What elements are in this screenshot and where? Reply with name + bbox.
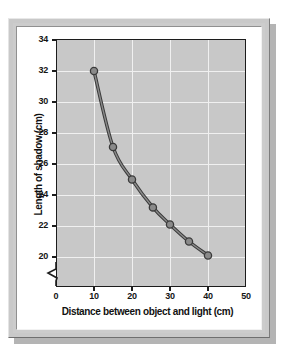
gridline-vertical [132, 40, 133, 286]
chart-canvas: 2022242628303234 01020304050 Distance be… [0, 0, 283, 352]
plot-area [56, 39, 246, 287]
gridline-horizontal [57, 226, 245, 227]
y-tick-mark [52, 163, 56, 164]
x-tick-label: 20 [121, 291, 143, 301]
x-tick-label: 40 [197, 291, 219, 301]
gridline-vertical [94, 40, 95, 286]
y-tick-mark [52, 101, 56, 102]
y-tick-mark [52, 256, 56, 257]
gridline-horizontal [57, 195, 245, 196]
gridline-horizontal [57, 164, 245, 165]
y-tick-label: 34 [26, 34, 48, 44]
x-axis-title: Distance between object and light (cm) [30, 306, 265, 317]
gridline-horizontal [57, 71, 245, 72]
y-tick-mark [52, 39, 56, 40]
figure-root: 2022242628303234 01020304050 Distance be… [0, 0, 283, 352]
y-tick-mark [52, 225, 56, 226]
gridline-horizontal [57, 102, 245, 103]
y-axis-break-icon [45, 261, 61, 287]
y-tick-mark [52, 132, 56, 133]
x-tick-label: 0 [45, 291, 67, 301]
gridline-horizontal [57, 257, 245, 258]
x-tick-label: 50 [235, 291, 257, 301]
y-axis-title: Length of shadow (cm) [33, 65, 44, 265]
gridline-vertical [170, 40, 171, 286]
gridline-vertical [208, 40, 209, 286]
x-tick-label: 10 [83, 291, 105, 301]
x-tick-label: 30 [159, 291, 181, 301]
y-tick-mark [52, 194, 56, 195]
gridline-horizontal [57, 133, 245, 134]
y-tick-mark [52, 70, 56, 71]
